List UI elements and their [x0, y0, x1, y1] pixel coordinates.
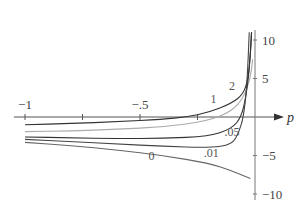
y-tick-label: 5: [262, 71, 269, 86]
curve-p05: [25, 32, 252, 138]
curve-label: 0: [149, 149, 155, 163]
y-tick-label: −5: [262, 148, 276, 163]
curve-label: .05: [225, 125, 240, 139]
x-axis-label: p: [286, 110, 294, 125]
y-tick-label: 10: [262, 33, 275, 48]
curve-labels: 12.05.010: [149, 79, 240, 163]
curve-p01: [25, 32, 249, 147]
curve-label: 2: [229, 79, 235, 93]
y-tick-label: −10: [262, 187, 282, 202]
x-tick-label: −1: [18, 97, 32, 112]
x-axis: p −1−.5: [14, 97, 294, 125]
curve-label: .01: [204, 146, 219, 160]
x-axis-arrow-icon: [274, 114, 284, 121]
chart: p −1−.5 105−5−10 12.05.010: [0, 0, 302, 210]
curve-label: 1: [211, 92, 217, 106]
x-tick-label: −.5: [131, 97, 148, 112]
